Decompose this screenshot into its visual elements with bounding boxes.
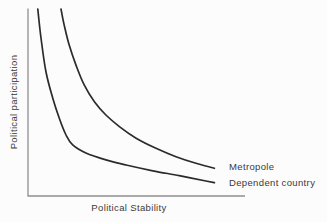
series-label-metropole: Metropole (229, 161, 274, 172)
plot-svg (0, 0, 327, 222)
y-axis-label: Political participation (8, 55, 19, 150)
x-axis-label: Political Stability (91, 202, 166, 213)
figure: Political participation Political Stabil… (0, 0, 327, 222)
curve-dependent-country (38, 9, 215, 183)
series-label-dependent-country: Dependent country (229, 177, 315, 188)
curve-metropole (61, 9, 214, 168)
